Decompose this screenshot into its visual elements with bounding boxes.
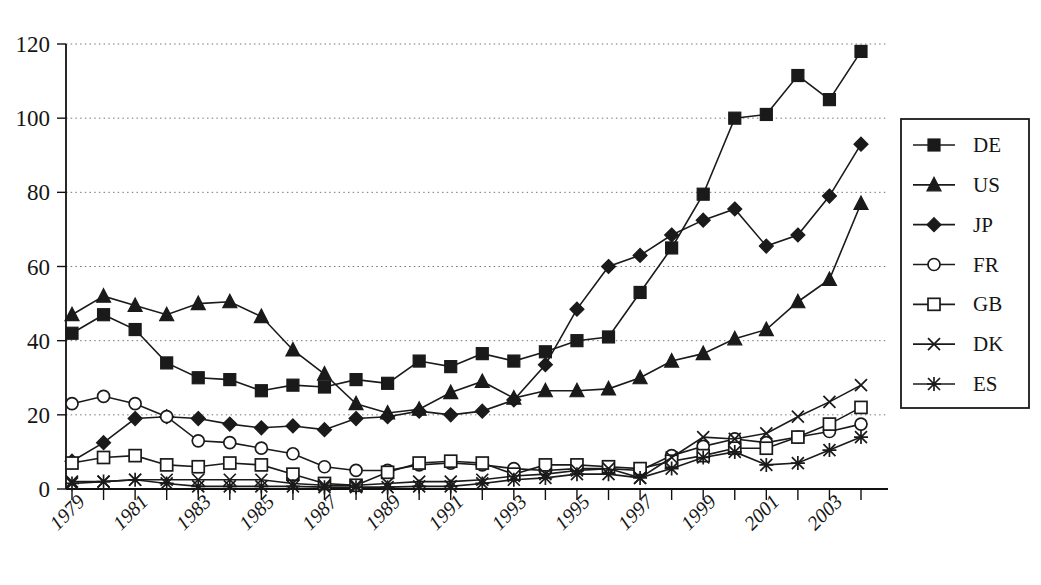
marker-filled-diamond — [475, 404, 489, 418]
marker-open-square — [192, 461, 204, 473]
y-axis-tick-label: 0 — [39, 477, 51, 502]
series-markers-DE — [66, 45, 867, 396]
marker-asterisk — [223, 479, 237, 493]
marker-open-circle — [350, 464, 362, 476]
marker-filled-square — [634, 286, 646, 298]
marker-filled-diamond — [444, 408, 458, 422]
marker-asterisk — [128, 473, 142, 487]
x-axis-tick-label: 1999 — [676, 490, 720, 534]
marker-filled-triangle — [633, 370, 647, 384]
legend-border — [901, 119, 1029, 408]
marker-filled-diamond — [128, 412, 142, 426]
marker-open-square — [66, 457, 78, 469]
y-axis-tick-label: 100 — [16, 106, 51, 131]
marker-filled-triangle — [759, 322, 773, 336]
marker-asterisk — [254, 479, 268, 493]
chart-canvas: 020406080100120 197919811983198519871989… — [0, 0, 1041, 585]
series-line-FR — [72, 396, 861, 470]
marker-asterisk — [822, 443, 836, 457]
legend-label: US — [973, 173, 1000, 197]
marker-asterisk — [286, 479, 300, 493]
marker-filled-square — [287, 379, 299, 391]
legend-label: JP — [973, 213, 993, 237]
y-axis-tick-label: 120 — [16, 32, 51, 57]
marker-filled-square — [603, 331, 615, 343]
x-axis-tick-label: 1981 — [108, 490, 152, 534]
series-JP — [65, 137, 868, 468]
marker-asterisk — [633, 471, 647, 485]
marker-asterisk — [191, 479, 205, 493]
marker-open-square — [224, 457, 236, 469]
marker-filled-diamond — [317, 423, 331, 437]
marker-open-circle — [161, 411, 173, 423]
marker-asterisk — [728, 445, 742, 459]
x-axis-tick-label: 1979 — [45, 490, 89, 534]
marker-asterisk — [349, 480, 363, 494]
marker-open-square — [382, 466, 394, 478]
marker-filled-triangle — [822, 272, 836, 286]
x-axis-group: 1979198119831985198719891991199319951997… — [45, 489, 888, 534]
marker-open-circle — [224, 437, 236, 449]
legend-label: DE — [973, 133, 1001, 157]
marker-filled-triangle — [254, 309, 268, 323]
line-chart: 020406080100120 197919811983198519871989… — [0, 0, 1041, 585]
marker-asterisk — [602, 467, 616, 481]
marker-open-square — [255, 459, 267, 471]
marker-filled-triangle — [65, 307, 79, 321]
marker-asterisk — [381, 480, 395, 494]
marker-filled-square — [98, 309, 110, 321]
marker-asterisk — [317, 480, 331, 494]
y-axis-tick-label: 80 — [27, 180, 50, 205]
marker-filled-triangle — [602, 381, 616, 395]
series-DE — [66, 45, 867, 396]
marker-filled-square — [129, 324, 141, 336]
marker-filled-triangle — [696, 346, 710, 360]
marker-asterisk — [412, 479, 426, 493]
marker-open-circle — [255, 442, 267, 454]
marker-filled-square — [382, 377, 394, 389]
marker-asterisk — [759, 458, 773, 472]
x-axis-tick-label: 1989 — [361, 490, 405, 534]
marker-open-square — [476, 457, 488, 469]
series-line-GB — [72, 407, 861, 485]
marker-filled-diamond — [854, 137, 868, 151]
marker-filled-diamond — [633, 248, 647, 262]
marker-open-square — [760, 442, 772, 454]
marker-filled-diamond — [97, 436, 111, 450]
marker-filled-square — [823, 94, 835, 106]
series-line-JP — [72, 144, 861, 461]
legend-label: ES — [973, 372, 998, 396]
marker-filled-square — [350, 374, 362, 386]
x-axis-tick-label: 1987 — [298, 489, 343, 534]
marker-open-square — [823, 418, 835, 430]
x-axis-tick-label: 1995 — [550, 490, 594, 534]
marker-filled-triangle — [854, 196, 868, 210]
marker-asterisk — [854, 430, 868, 444]
marker-cross — [792, 411, 804, 423]
marker-filled-triangle — [444, 385, 458, 399]
marker-open-square — [413, 457, 425, 469]
marker-asterisk — [696, 450, 710, 464]
series-group — [65, 45, 868, 494]
marker-filled-diamond — [696, 213, 710, 227]
marker-filled-square — [508, 355, 520, 367]
marker-filled-diamond — [349, 412, 363, 426]
marker-filled-square — [445, 361, 457, 373]
series-line-DE — [72, 51, 861, 390]
marker-filled-square — [318, 381, 330, 393]
marker-filled-diamond — [570, 302, 584, 316]
marker-open-circle — [129, 398, 141, 410]
marker-asterisk — [570, 467, 584, 481]
marker-filled-square — [571, 335, 583, 347]
marker-asterisk — [538, 471, 552, 485]
marker-asterisk — [665, 462, 679, 476]
legend-label: GB — [973, 292, 1002, 316]
chart-legend[interactable]: DEUSJPFRGBDKES — [901, 119, 1029, 408]
x-axis-tick-label: 1993 — [487, 490, 531, 534]
marker-asterisk — [160, 476, 174, 490]
marker-open-square — [98, 451, 110, 463]
marker-filled-square — [697, 188, 709, 200]
legend-label: DK — [973, 332, 1003, 356]
marker-filled-square — [66, 327, 78, 339]
marker-filled-diamond — [286, 419, 300, 433]
